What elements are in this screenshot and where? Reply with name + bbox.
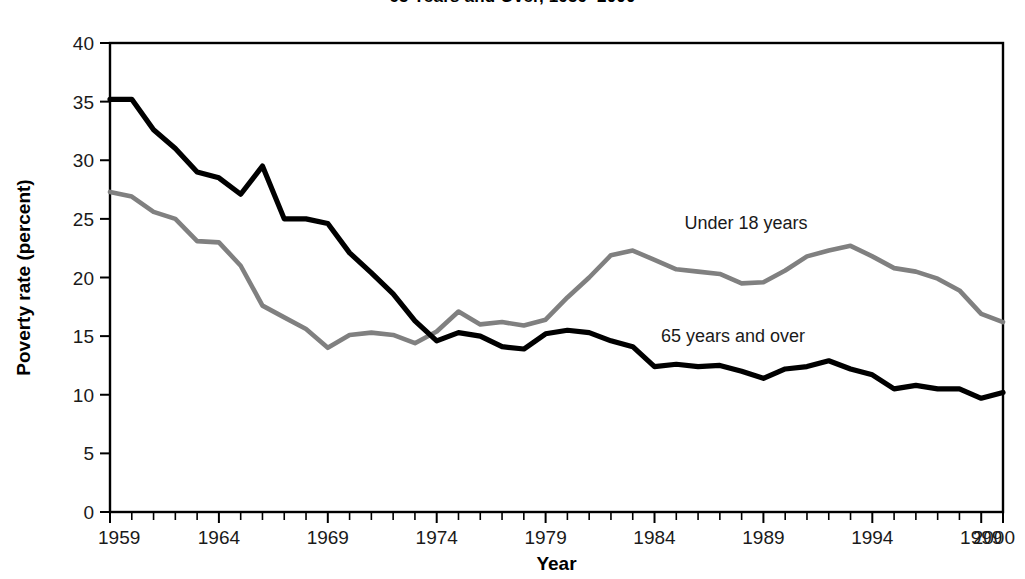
x-axis-title: Year bbox=[536, 553, 577, 574]
x-tick-label: 1974 bbox=[416, 527, 459, 548]
x-tick-label: 1979 bbox=[524, 527, 566, 548]
y-tick-label: 25 bbox=[73, 209, 94, 230]
x-tick-label: 2000 bbox=[973, 527, 1015, 548]
series-group bbox=[110, 99, 1003, 398]
y-tick-label: 0 bbox=[83, 502, 94, 523]
y-tick-label: 15 bbox=[73, 326, 94, 347]
y-tick-label: 30 bbox=[73, 150, 94, 171]
x-tick-label: 1984 bbox=[633, 527, 676, 548]
y-axis-title: Poverty rate (percent) bbox=[13, 179, 34, 375]
x-tick-label: 1969 bbox=[307, 527, 349, 548]
plot-frame-border bbox=[110, 43, 1003, 512]
poverty-rate-chart-figure: 65 Years and Over, 1959–2000 05101520253… bbox=[0, 0, 1025, 579]
series-line-65-years-and-over bbox=[110, 99, 1003, 398]
y-tick-label: 40 bbox=[73, 33, 94, 54]
series-line-under-18-years bbox=[110, 192, 1003, 348]
series-label-under-18-years: Under 18 years bbox=[684, 213, 807, 233]
y-tick-label: 35 bbox=[73, 92, 94, 113]
chart-plot-area: 0510152025303540 19591964196919741979198… bbox=[0, 0, 1025, 579]
x-tick-label: 1994 bbox=[851, 527, 894, 548]
x-tick-label: 1964 bbox=[198, 527, 241, 548]
y-tick-label: 5 bbox=[83, 443, 94, 464]
x-axis-tick-group: 1959196419691974197919841989199419992000 bbox=[98, 512, 1015, 548]
y-tick-label: 10 bbox=[73, 385, 94, 406]
y-axis-tick-group: 0510152025303540 bbox=[73, 33, 110, 523]
x-tick-label: 1989 bbox=[742, 527, 784, 548]
x-tick-label: 1959 bbox=[98, 527, 140, 548]
series-label-65-years-and-over: 65 years and over bbox=[661, 326, 805, 346]
y-tick-label: 20 bbox=[73, 268, 94, 289]
